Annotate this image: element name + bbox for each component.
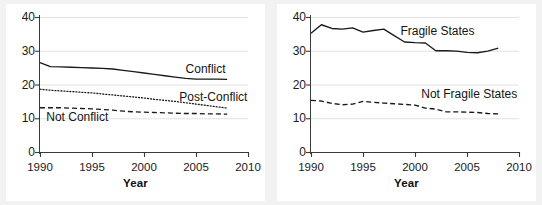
x-tick-label: 1995 bbox=[343, 161, 383, 173]
two-panel-line-chart-figure: 010203040 19901995200020052010 ConflictP… bbox=[0, 0, 542, 205]
x-tick-label: 2005 bbox=[447, 161, 487, 173]
x-axis-title-left: Year bbox=[0, 177, 271, 189]
x-tick-label: 2000 bbox=[395, 161, 435, 173]
y-tick-label: 20 bbox=[9, 79, 35, 91]
series-label-post-conflict: Post-Conflict bbox=[179, 91, 247, 103]
x-tick-label: 2005 bbox=[176, 161, 216, 173]
y-tick-label: 20 bbox=[280, 79, 306, 91]
y-tick-label: 0 bbox=[9, 146, 35, 158]
series-label-fragile-states: Fragile States bbox=[400, 25, 474, 37]
x-tick-label: 1995 bbox=[72, 161, 112, 173]
y-tick-label: 40 bbox=[9, 11, 35, 23]
tickmarks-left bbox=[35, 18, 249, 158]
series-label-conflict: Conflict bbox=[186, 63, 226, 75]
series-label-not-conflict: Not Conflict bbox=[46, 111, 108, 123]
x-tick-label: 2000 bbox=[124, 161, 164, 173]
y-tick-label: 30 bbox=[9, 45, 35, 57]
x-tick-label: 1990 bbox=[291, 161, 331, 173]
chart-panel-right: 010203040 19901995200020052010 Fragile S… bbox=[271, 0, 542, 205]
y-tick-label: 10 bbox=[9, 112, 35, 124]
y-tick-label: 40 bbox=[280, 11, 306, 23]
chart-panel-left: 010203040 19901995200020052010 ConflictP… bbox=[0, 0, 271, 205]
series-line-not-fragile-states bbox=[311, 100, 498, 114]
x-axis-title-right: Year bbox=[271, 177, 542, 189]
y-tick-label: 10 bbox=[280, 112, 306, 124]
y-tick-label: 30 bbox=[280, 45, 306, 57]
x-tick-label: 2010 bbox=[499, 161, 539, 173]
x-tick-label: 1990 bbox=[20, 161, 60, 173]
x-tick-label: 2010 bbox=[228, 161, 268, 173]
y-tick-label: 0 bbox=[280, 146, 306, 158]
series-label-not-fragile-states: Not Fragile States bbox=[421, 88, 517, 100]
